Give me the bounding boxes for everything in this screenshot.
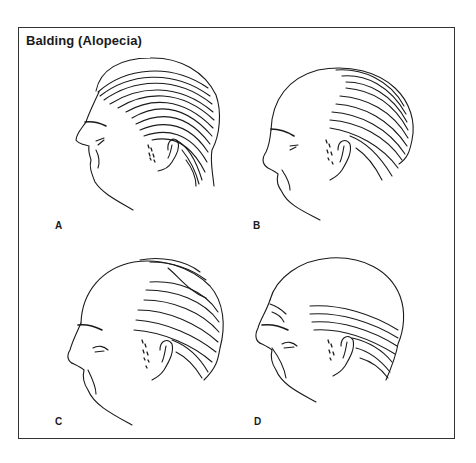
head-d-drawing — [256, 258, 404, 402]
head-c-drawing — [68, 259, 223, 426]
balding-illustration — [0, 0, 476, 463]
head-b-drawing — [263, 68, 413, 220]
head-a-drawing — [76, 58, 219, 210]
